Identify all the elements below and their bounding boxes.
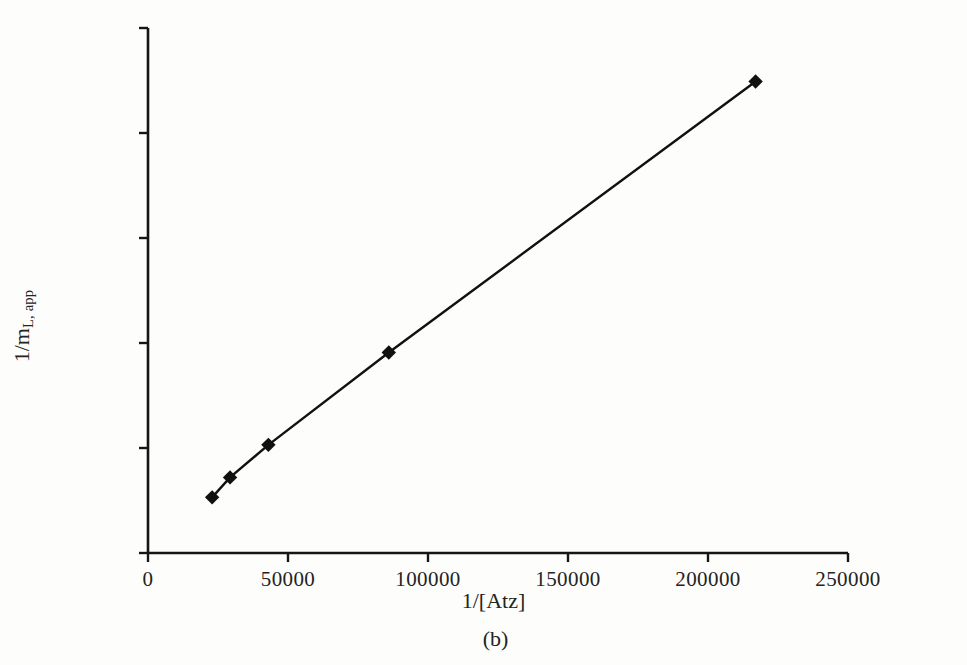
chart-canvas xyxy=(0,0,967,665)
x-axis-tick-label: 150000 xyxy=(535,569,600,590)
x-axis-title-text: 1/[Atz] xyxy=(462,588,526,614)
y-axis-title: 1/mL, app xyxy=(6,246,40,406)
x-axis-tick-label: 250000 xyxy=(815,569,880,590)
x-axis-tick-label: 100000 xyxy=(395,569,460,590)
x-axis-tick-label: 0 xyxy=(143,569,154,590)
figure-panel: 0.0E + 005.0E + 071.0E + 081.5E + 082.0E… xyxy=(0,0,967,665)
figure-caption-text: (b) xyxy=(483,626,509,652)
x-axis-tick-label: 200000 xyxy=(675,569,740,590)
y-axis-title-subscript: L, app xyxy=(20,290,36,328)
plot-area: 0.0E + 005.0E + 071.0E + 081.5E + 082.0E… xyxy=(0,0,967,665)
y-axis-title-main: 1/m xyxy=(9,328,34,362)
x-axis-ticks xyxy=(148,553,848,562)
x-axis-title: 1/[Atz] xyxy=(0,588,967,614)
data-series-line xyxy=(212,82,755,498)
x-axis-tick-label: 50000 xyxy=(261,569,316,590)
figure-caption: (b) xyxy=(0,626,967,652)
y-axis-ticks xyxy=(139,28,148,553)
